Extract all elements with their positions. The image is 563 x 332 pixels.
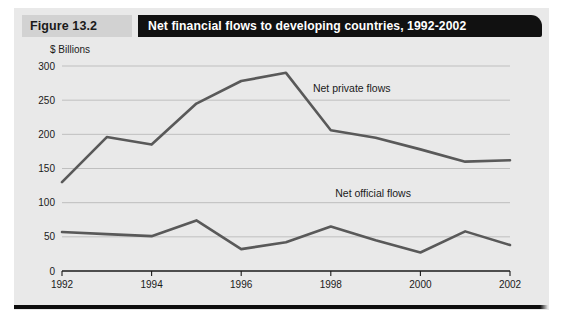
x-axis-tick-label: 2002 [499,279,522,290]
series-annotation-private: Net private flows [313,82,391,94]
x-axis-tick-label: 1994 [140,279,163,290]
x-axis-tick-label: 1998 [320,279,343,290]
y-axis-tick-label: 200 [38,129,55,140]
bottom-rule-taper [540,305,548,309]
figure-panel: Figure 13.2 Net financial flows to devel… [14,8,549,310]
x-axis-tick-label: 1992 [51,279,74,290]
x-axis: 199219941996199820002002 [51,271,522,290]
series-line-private [62,73,510,182]
y-axis-tick-label: 0 [49,266,55,277]
line-chart-svg: 0501001502002503001992199419961998200020… [14,8,549,310]
x-axis-tick-label: 2000 [409,279,432,290]
bottom-rule [14,305,548,309]
plot-area: 0501001502002503001992199419961998200020… [14,8,549,310]
y-axis-tick-label: 150 [38,163,55,174]
y-axis-tick-label: 100 [38,197,55,208]
y-axis-tick-label: 250 [38,95,55,106]
figure-root: Figure 13.2 Net financial flows to devel… [0,0,563,332]
x-axis-tick-label: 1996 [230,279,253,290]
y-axis-tick-label: 300 [38,61,55,72]
y-axis-tick-label: 50 [44,231,56,242]
series-annotation-official: Net official flows [335,187,411,199]
